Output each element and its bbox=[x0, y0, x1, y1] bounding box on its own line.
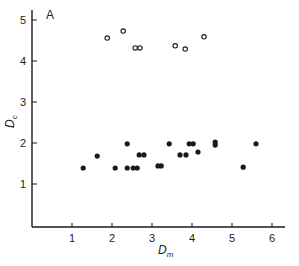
filled-circle-point bbox=[141, 152, 146, 157]
filled-circle-point bbox=[241, 165, 246, 170]
filled-circle-point bbox=[125, 141, 130, 146]
scatter-chart: 12345612345 A Dm Dc bbox=[0, 0, 299, 266]
y-tick-label: 5 bbox=[20, 14, 26, 26]
axes bbox=[32, 10, 285, 227]
filled-circle-point bbox=[253, 141, 258, 146]
filled-circle-point bbox=[135, 165, 140, 170]
filled-circle-point bbox=[177, 152, 182, 157]
filled-circle-point bbox=[191, 141, 196, 146]
open-circle-point bbox=[202, 35, 206, 39]
filled-circle-point bbox=[125, 165, 130, 170]
filled-circle-point bbox=[113, 165, 118, 170]
y-tick-label: 2 bbox=[20, 137, 26, 149]
x-tick-label: 3 bbox=[149, 232, 155, 244]
open-circle-point bbox=[121, 29, 125, 33]
y-tick-label: 1 bbox=[20, 178, 26, 190]
filled-circle-point bbox=[137, 152, 142, 157]
x-tick-label: 1 bbox=[69, 232, 75, 244]
panel-label: A bbox=[46, 8, 54, 22]
filled-circle-point bbox=[195, 149, 200, 154]
ticks: 12345612345 bbox=[20, 14, 275, 244]
filled-circle-point bbox=[213, 142, 218, 147]
y-tick-label: 4 bbox=[20, 55, 26, 67]
open-circle-point bbox=[173, 44, 177, 48]
x-tick-label: 6 bbox=[269, 232, 275, 244]
open-circle-point bbox=[183, 47, 187, 51]
filled-circle-point bbox=[183, 152, 188, 157]
data-points bbox=[81, 29, 259, 171]
filled-circle-point bbox=[81, 165, 86, 170]
x-tick-label: 4 bbox=[189, 232, 195, 244]
open-circle-point bbox=[138, 46, 142, 50]
series-filled-circle bbox=[81, 140, 259, 171]
y-axis-label: Dc bbox=[3, 115, 19, 128]
filled-circle-point bbox=[95, 154, 100, 159]
series-open-circle bbox=[105, 29, 206, 51]
x-tick-label: 2 bbox=[109, 232, 115, 244]
x-axis-label: Dm bbox=[158, 243, 174, 259]
y-tick-label: 3 bbox=[20, 96, 26, 108]
open-circle-point bbox=[105, 36, 109, 40]
filled-circle-point bbox=[159, 163, 164, 168]
open-circle-point bbox=[133, 46, 137, 50]
x-tick-label: 5 bbox=[229, 232, 235, 244]
filled-circle-point bbox=[167, 141, 172, 146]
